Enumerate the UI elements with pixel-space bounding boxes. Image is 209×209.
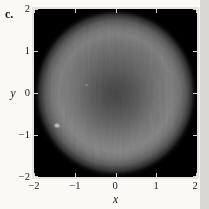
x-tick-label: 2 [183, 180, 207, 192]
x-axis-label: x [103, 193, 128, 205]
axis-tick [34, 51, 38, 52]
axis-tick [116, 9, 117, 13]
axis-tick [34, 135, 38, 136]
axis-tick [75, 173, 76, 177]
heatmap-disk [34, 9, 197, 177]
bright-speck [85, 84, 88, 86]
axis-tick [193, 135, 197, 136]
axis-tick [193, 9, 197, 10]
axis-tick [34, 9, 38, 10]
x-tick-label: 1 [144, 180, 168, 192]
axis-tick [34, 93, 38, 94]
axis-tick [34, 176, 38, 177]
y-tick-label: 1 [0, 45, 30, 57]
plot-frame [32, 7, 199, 179]
axis-tick [193, 51, 197, 52]
y-tick-label: −1 [0, 129, 30, 141]
y-axis-label: y [7, 87, 19, 99]
axis-tick [156, 9, 157, 13]
x-tick-label: 0 [103, 180, 127, 192]
scan-margin-strip [200, 0, 209, 209]
axis-tick [193, 176, 197, 177]
axis-tick [75, 9, 76, 13]
plot-area [34, 9, 197, 177]
axis-tick [116, 173, 117, 177]
x-tick-label: −1 [63, 180, 87, 192]
x-tick-label: −2 [22, 180, 46, 192]
axis-tick [193, 93, 197, 94]
axis-tick [156, 173, 157, 177]
y-tick-label: 2 [0, 3, 30, 15]
bright-speck [55, 124, 59, 127]
